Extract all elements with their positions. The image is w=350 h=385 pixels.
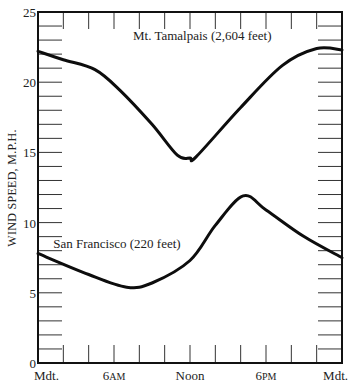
y-tick-label: 20 [23,75,36,90]
mt-tamalpais-label: Mt. Tamalpais (2,604 feet) [133,28,272,43]
y-tick-label: 5 [30,286,37,301]
x-tick-label: Mdt. [323,368,348,383]
mt-tamalpais-line [38,48,342,161]
series-lines: Mt. Tamalpais (2,604 feet)San Francisco … [38,28,342,288]
y-tick-label: 10 [23,216,36,231]
y-axis-tick-labels: 0510152025 [23,5,36,371]
san-francisco-label: San Francisco (220 feet) [53,236,180,251]
y-axis-label: WIND SPEED, M.P.H. [5,129,19,246]
x-axis-tick-labels: Mdt.6AMNoon6PMMdt. [34,368,348,383]
x-tick-label: Mdt. [34,368,59,383]
y-tick-label: 15 [23,145,36,160]
y-tick-label: 25 [23,5,36,20]
x-tick-label: 6PM [256,368,277,383]
wind-speed-chart: 0510152025 Mdt.6AMNoon6PMMdt. WIND SPEED… [0,0,350,385]
x-tick-label: 6AM [103,368,126,383]
x-tick-label: Noon [176,368,205,383]
